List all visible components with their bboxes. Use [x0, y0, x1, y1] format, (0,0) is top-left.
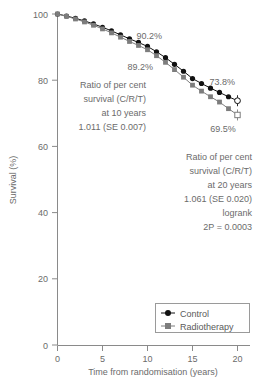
data-point — [145, 47, 150, 52]
data-point — [73, 17, 78, 22]
x-tick-label: 5 — [100, 354, 105, 364]
data-point — [127, 39, 132, 44]
data-point — [154, 53, 159, 58]
data-point — [64, 14, 69, 19]
legend-marker — [165, 323, 171, 329]
data-point — [163, 60, 168, 65]
label-control-10y: 90.2% — [137, 31, 163, 41]
x-tick-label: 15 — [187, 354, 197, 364]
x-axis: 05101520 Time from randomisation (years) — [55, 346, 250, 378]
annot10-line2: survival (C/R/T) — [84, 94, 147, 104]
y-tick-label: 60 — [38, 142, 48, 152]
annot20-line4: 1.061 (SE 0.020) — [184, 194, 252, 204]
y-axis-ticks: 100806040200 — [33, 10, 58, 351]
y-tick-label: 20 — [38, 274, 48, 284]
legend-items: ControlRadiotherapy — [161, 309, 234, 332]
data-point — [118, 35, 123, 40]
data-point — [136, 43, 141, 48]
data-point — [163, 55, 168, 60]
data-point — [190, 76, 195, 81]
annot10-line4: 1.011 (SE 0.007) — [79, 122, 146, 132]
legend-label: Radiotherapy — [180, 322, 234, 332]
data-point — [199, 89, 204, 94]
annotation-20-years: Ratio of per cent survival (C/R/T) at 20… — [184, 152, 253, 232]
survival-chart: 100806040200 Survival (%) 05101520 Time … — [0, 0, 269, 382]
legend-marker — [165, 310, 171, 316]
y-tick-label: 80 — [38, 76, 48, 86]
y-tick-label: 40 — [38, 208, 48, 218]
data-point — [199, 81, 204, 86]
x-axis-title: Time from randomisation (years) — [88, 367, 218, 377]
x-tick-label: 0 — [55, 354, 60, 364]
label-control-20y: 73.8% — [209, 77, 235, 87]
x-tick-label: 20 — [232, 354, 242, 364]
annot20-line1: Ratio of per cent — [186, 152, 253, 162]
annot10-line3: at 10 years — [101, 108, 146, 118]
annot20-line6: 2P = 0.0003 — [203, 222, 252, 232]
data-point — [172, 67, 177, 72]
data-point — [109, 30, 114, 35]
annot20-line5: logrank — [222, 208, 252, 218]
legend-item-radiotherapy: Radiotherapy — [161, 322, 234, 332]
data-point — [217, 100, 222, 105]
endpoint-radiotherapy — [235, 109, 240, 120]
y-axis-title: Survival (%) — [8, 156, 18, 205]
legend: ControlRadiotherapy — [156, 304, 250, 333]
legend-item-control: Control — [161, 309, 209, 319]
label-rt-20y: 69.5% — [210, 124, 236, 134]
x-tick-label: 10 — [142, 354, 152, 364]
annot20-line3: at 20 years — [207, 180, 252, 190]
data-point — [217, 90, 222, 95]
data-point — [100, 26, 105, 31]
x-axis-ticks: 05101520 — [55, 346, 243, 365]
chart-canvas: 100806040200 Survival (%) 05101520 Time … — [0, 0, 269, 382]
data-point — [91, 23, 96, 28]
endpoint-control — [235, 95, 241, 106]
annot10-line1: Ratio of per cent — [80, 80, 147, 90]
data-point — [190, 83, 195, 88]
data-point — [82, 20, 87, 25]
data-point — [172, 62, 177, 67]
data-point — [55, 12, 60, 17]
y-axis: 100806040200 Survival (%) — [8, 10, 58, 351]
endpoint-markers — [235, 95, 241, 120]
open-marker — [235, 98, 241, 104]
legend-label: Control — [180, 309, 209, 319]
data-point — [226, 106, 231, 111]
data-point — [181, 75, 186, 80]
annotation-10-years: Ratio of per cent survival (C/R/T) at 10… — [79, 80, 147, 132]
label-rt-10y: 89.2% — [128, 62, 154, 72]
annot20-line2: survival (C/R/T) — [190, 166, 253, 176]
open-marker — [235, 112, 240, 117]
data-point — [181, 69, 186, 74]
y-tick-label: 100 — [33, 10, 48, 20]
data-point — [208, 94, 213, 99]
y-tick-label: 0 — [43, 341, 48, 351]
data-point — [226, 94, 231, 99]
